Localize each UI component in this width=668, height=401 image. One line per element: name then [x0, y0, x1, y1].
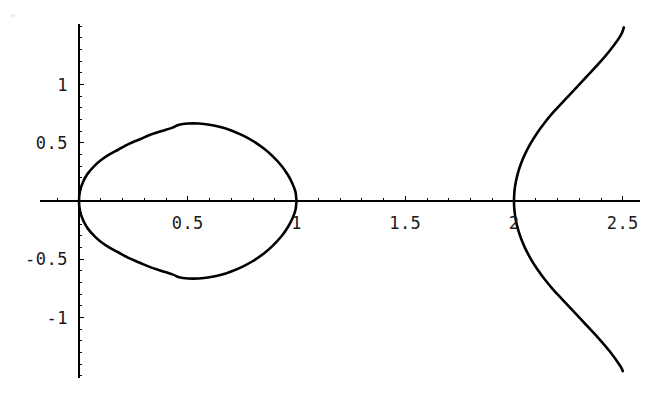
- y-tick-label: 1: [57, 75, 68, 95]
- x-tick-label: 2.5: [607, 213, 639, 233]
- y-tick-label: -0.5: [25, 249, 68, 269]
- x-tick-label: 1.5: [389, 213, 421, 233]
- plot-figure: 0.511.522.510.5-0.5-1: [0, 0, 668, 401]
- y-tick-label: 0.5: [36, 133, 68, 153]
- image-speck: [11, 14, 15, 17]
- y-tick-label: -1: [47, 308, 68, 328]
- x-tick-label: 2: [509, 213, 520, 233]
- plot-canvas: 0.511.522.510.5-0.5-1: [0, 0, 668, 401]
- x-tick-label: 1: [291, 213, 302, 233]
- x-tick-label: 0.5: [172, 213, 204, 233]
